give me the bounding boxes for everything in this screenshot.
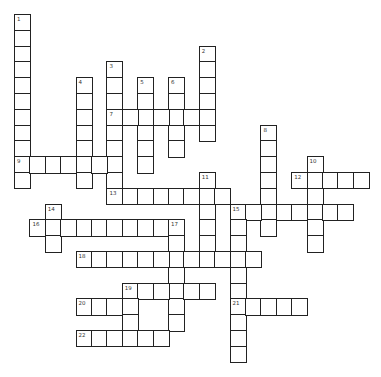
crossword-cell[interactable]: 6 <box>168 77 185 94</box>
crossword-cell[interactable] <box>14 109 31 126</box>
crossword-cell[interactable] <box>337 204 354 221</box>
crossword-cell[interactable] <box>76 93 93 110</box>
clue-number: 16 <box>32 221 39 227</box>
crossword-cell[interactable] <box>76 140 93 157</box>
crossword-cell[interactable] <box>168 125 185 142</box>
clue-number: 5 <box>140 79 144 85</box>
crossword-cell[interactable] <box>106 298 123 315</box>
crossword-cell[interactable] <box>230 314 247 331</box>
crossword-cell[interactable] <box>199 93 216 110</box>
crossword-cell[interactable] <box>183 251 200 268</box>
clue-number: 2 <box>202 48 206 54</box>
crossword-cell[interactable] <box>168 314 185 331</box>
crossword-cell[interactable] <box>199 235 216 252</box>
crossword-cell[interactable] <box>230 283 247 300</box>
crossword-cell[interactable] <box>14 77 31 94</box>
crossword-cell[interactable] <box>199 204 216 221</box>
crossword-cell[interactable]: 4 <box>76 77 93 94</box>
crossword-cell[interactable] <box>307 219 324 236</box>
crossword-cell[interactable] <box>199 125 216 142</box>
crossword-cell[interactable] <box>76 109 93 126</box>
crossword-cell[interactable]: 3 <box>106 61 123 78</box>
crossword-cell[interactable] <box>137 156 154 173</box>
crossword-cell[interactable] <box>14 172 31 189</box>
crossword-cell[interactable] <box>260 172 277 189</box>
crossword-cell[interactable] <box>168 93 185 110</box>
crossword-cell[interactable] <box>137 93 154 110</box>
clue-number: 19 <box>125 285 132 291</box>
crossword-cell[interactable] <box>14 140 31 157</box>
crossword-cell[interactable] <box>106 93 123 110</box>
crossword-cell[interactable] <box>137 140 154 157</box>
crossword-cell[interactable] <box>122 298 139 315</box>
crossword-cell[interactable] <box>260 140 277 157</box>
crossword-cell[interactable] <box>199 219 216 236</box>
crossword-cell[interactable]: 1 <box>14 14 31 31</box>
crossword-cell[interactable] <box>230 330 247 347</box>
crossword-cell[interactable] <box>106 77 123 94</box>
crossword-cell[interactable] <box>45 235 62 252</box>
crossword-cell[interactable] <box>307 188 324 205</box>
crossword-cell[interactable] <box>307 235 324 252</box>
crossword-cell[interactable] <box>230 346 247 363</box>
crossword-cell[interactable] <box>291 298 308 315</box>
crossword-cell[interactable]: 14 <box>45 204 62 221</box>
crossword-cell[interactable] <box>14 93 31 110</box>
crossword-cell[interactable] <box>106 172 123 189</box>
crossword-cell[interactable] <box>14 125 31 142</box>
crossword-cell[interactable] <box>230 219 247 236</box>
crossword-cell[interactable]: 16 <box>29 219 46 236</box>
crossword-cell[interactable] <box>106 125 123 142</box>
crossword-cell[interactable] <box>260 156 277 173</box>
crossword-cell[interactable] <box>106 140 123 157</box>
crossword-cell[interactable] <box>137 125 154 142</box>
crossword-cell[interactable] <box>153 283 170 300</box>
crossword-cell[interactable] <box>14 61 31 78</box>
crossword-cell[interactable] <box>14 46 31 63</box>
clue-number: 13 <box>109 190 116 196</box>
crossword-cell[interactable] <box>214 188 231 205</box>
crossword-cell[interactable] <box>230 267 247 284</box>
crossword-cell[interactable] <box>214 251 231 268</box>
clue-number: 7 <box>109 111 113 117</box>
crossword-cell[interactable] <box>91 156 108 173</box>
crossword-cell[interactable] <box>168 267 185 284</box>
clue-number: 18 <box>79 253 86 259</box>
crossword-cell[interactable] <box>199 109 216 126</box>
crossword-cell[interactable] <box>106 330 123 347</box>
crossword-cell[interactable] <box>153 109 170 126</box>
crossword-cell[interactable]: 2 <box>199 46 216 63</box>
crossword-cell[interactable] <box>260 219 277 236</box>
crossword-cell[interactable] <box>183 109 200 126</box>
crossword-cell[interactable] <box>14 30 31 47</box>
crossword-cell[interactable] <box>106 156 123 173</box>
crossword-cell[interactable]: 17 <box>168 219 185 236</box>
crossword-cell[interactable] <box>199 61 216 78</box>
crossword-cell[interactable] <box>199 283 216 300</box>
crossword-cell[interactable] <box>153 251 170 268</box>
crossword-cell[interactable] <box>260 188 277 205</box>
crossword-cell[interactable] <box>245 204 262 221</box>
crossword-cell[interactable]: 8 <box>260 125 277 142</box>
crossword-cell[interactable] <box>291 204 308 221</box>
crossword-cell[interactable] <box>353 172 370 189</box>
crossword-cell[interactable] <box>122 109 139 126</box>
crossword-cell[interactable] <box>60 156 77 173</box>
clue-number: 22 <box>79 332 86 338</box>
crossword-cell[interactable]: 5 <box>137 77 154 94</box>
crossword-cell[interactable] <box>199 77 216 94</box>
crossword-cell[interactable] <box>183 188 200 205</box>
crossword-cell[interactable] <box>168 140 185 157</box>
crossword-cell[interactable] <box>168 298 185 315</box>
crossword-cell[interactable]: 10 <box>307 156 324 173</box>
crossword-cell[interactable] <box>230 235 247 252</box>
crossword-cell[interactable] <box>122 314 139 331</box>
clue-number: 21 <box>233 300 240 306</box>
crossword-cell[interactable] <box>153 330 170 347</box>
crossword-cell[interactable] <box>76 172 93 189</box>
crossword-cell[interactable] <box>245 251 262 268</box>
crossword-cell[interactable] <box>76 125 93 142</box>
crossword-cell[interactable]: 12 <box>291 172 308 189</box>
crossword-cell[interactable]: 11 <box>199 172 216 189</box>
crossword-cell[interactable] <box>168 235 185 252</box>
